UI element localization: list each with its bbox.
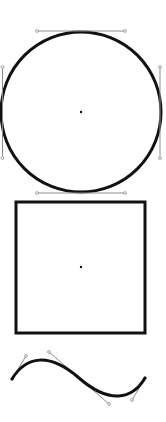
square-shape[interactable]: [16, 202, 145, 333]
bezier-curve-shape[interactable]: [11, 351, 147, 406]
curve-path[interactable]: [12, 360, 145, 396]
handle-point[interactable]: [131, 399, 134, 402]
circle-center-dot: [80, 111, 82, 113]
handle-point[interactable]: [159, 66, 162, 69]
square-center-dot: [80, 266, 82, 268]
handle-point[interactable]: [1, 66, 4, 69]
circle-shape[interactable]: [1, 30, 161, 195]
handle-point[interactable]: [124, 192, 127, 195]
handle-point[interactable]: [108, 403, 111, 406]
handle-point[interactable]: [36, 192, 39, 195]
handle-point[interactable]: [1, 157, 4, 160]
handle-point[interactable]: [48, 351, 51, 354]
vector-canvas: [0, 0, 166, 422]
handle-point[interactable]: [124, 30, 127, 33]
handle-point[interactable]: [159, 157, 162, 160]
handle-point[interactable]: [25, 355, 28, 358]
handle-point[interactable]: [36, 30, 39, 33]
